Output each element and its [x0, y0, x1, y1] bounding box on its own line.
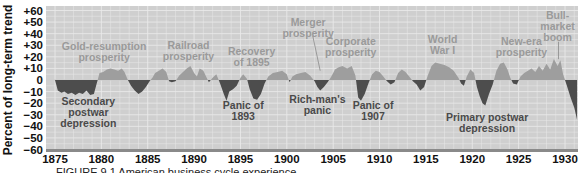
- x-tick-label: 1915: [413, 153, 439, 165]
- x-tick-label: 1920: [459, 153, 485, 165]
- y-tick-label: +40: [23, 28, 43, 40]
- x-tick-label: 1900: [274, 153, 300, 165]
- y-tick-label: 0: [37, 74, 43, 86]
- x-tick-label: 1890: [181, 153, 207, 165]
- x-tick-label: 1895: [228, 153, 254, 165]
- y-tick-label: +30: [23, 39, 43, 51]
- annotation-7: Corporateprosperity: [325, 35, 377, 58]
- x-tick-label: 1925: [506, 153, 532, 165]
- business-cycle-chart: Percent of long-term trend +60+50+40+30+…: [0, 0, 580, 173]
- x-axis-ticks: 1875188018851890189519001905191019151920…: [42, 153, 578, 165]
- annotation-11: New-eraprosperity: [496, 35, 548, 58]
- y-tick-label: −10: [23, 86, 43, 98]
- y-tick-label: −40: [23, 120, 43, 132]
- y-tick-label: −20: [23, 97, 43, 109]
- x-tick-label: 1880: [89, 153, 115, 165]
- x-tick-label: 1910: [367, 153, 393, 165]
- x-tick-label: 1875: [42, 153, 68, 165]
- annotation-9: WorldWar I: [428, 33, 458, 56]
- annotation-2: Railroadprosperity: [163, 39, 215, 62]
- annotation-1: Secondarypostwardepression: [60, 95, 116, 129]
- y-tick-label: +50: [23, 16, 43, 28]
- y-axis-ticks: +60+50+40+30+20+100−10−20−30−40−50−60: [23, 5, 43, 156]
- y-tick-label: −30: [23, 109, 43, 121]
- y-tick-label: +20: [23, 51, 43, 63]
- y-tick-label: −50: [23, 132, 43, 144]
- figure-caption: FIGURE 9.1 American business cycle exper…: [56, 166, 296, 173]
- y-axis-label: Percent of long-term trend: [1, 5, 15, 156]
- x-tick-label: 1930: [552, 153, 578, 165]
- x-tick-label: 1905: [320, 153, 346, 165]
- y-tick-label: +60: [23, 5, 43, 17]
- y-tick-label: +10: [23, 62, 43, 74]
- y-axis-title: Percent of long-term trend: [1, 5, 15, 156]
- annotation-3: Recoveryof 1895: [228, 45, 275, 68]
- y-tick-label: −60: [23, 144, 43, 156]
- x-tick-label: 1885: [135, 153, 161, 165]
